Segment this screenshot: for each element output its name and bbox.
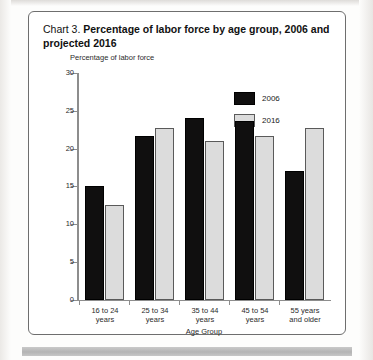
page-edge-shading-right	[359, 0, 373, 360]
bar-2006-2	[135, 136, 154, 299]
bar-2016-1	[105, 205, 124, 299]
y-tick-label-25: 25	[66, 106, 74, 115]
y-tick-label-5: 5	[70, 257, 74, 266]
bar-group-3: 35 to 44years	[179, 74, 229, 300]
chart-title-text: Percentage of labor force by age group, …	[43, 23, 330, 49]
y-tick-label-30: 30	[66, 68, 74, 77]
x-axis-label-line: years	[128, 315, 182, 325]
x-axis-line	[77, 300, 331, 302]
x-tick-5	[279, 300, 280, 305]
page-edge-shading-top	[0, 0, 373, 6]
bar-group-1: 16 to 24years	[79, 74, 129, 300]
x-tick-1	[79, 300, 80, 305]
bar-2006-5	[285, 171, 304, 299]
bar-2006-4	[235, 121, 254, 300]
bar-2016-3	[205, 141, 224, 300]
x-axis-label-line: 45 to 54	[228, 306, 282, 316]
bar-2016-2	[155, 128, 174, 299]
y-tick-label-10: 10	[66, 219, 74, 228]
x-axis-label-2: 25 to 34years	[128, 306, 182, 325]
chart-title-number: Chart 3.	[43, 23, 83, 35]
page-edge-shading-left	[0, 0, 11, 360]
x-axis-label-line: 16 to 24	[78, 306, 132, 316]
chart-figure-frame: Chart 3. Percentage of labor force by ag…	[28, 11, 346, 335]
page-footer-band	[22, 347, 352, 356]
x-axis-title: Age Group	[77, 327, 331, 336]
x-axis-label-line: years	[78, 315, 132, 325]
bar-2006-1	[85, 186, 104, 299]
x-axis-label-1: 16 to 24years	[78, 306, 132, 325]
x-axis-label-line: 55 years	[278, 306, 332, 316]
bar-2006-3	[185, 118, 204, 300]
scanned-page: Chart 3. Percentage of labor force by ag…	[0, 0, 373, 360]
y-axis-title: Percentage of labor force	[70, 53, 154, 62]
x-tick-3	[179, 300, 180, 305]
bar-group-4: 45 to 54years	[229, 74, 279, 300]
x-axis-label-4: 45 to 54years	[228, 306, 282, 325]
x-axis-label-line: 35 to 44	[178, 306, 232, 316]
x-axis-label-5: 55 yearsand older	[278, 306, 332, 325]
chart-title: Chart 3. Percentage of labor force by ag…	[43, 22, 335, 50]
bar-group-5: 55 yearsand older	[279, 74, 329, 300]
y-tick-label-15: 15	[66, 181, 74, 190]
x-axis-label-line: years	[178, 315, 232, 325]
x-tick-4	[229, 300, 230, 305]
x-tick-2	[129, 300, 130, 305]
x-axis-label-line: years	[228, 315, 282, 325]
x-axis-label-3: 35 to 44years	[178, 306, 232, 325]
bar-group-2: 25 to 34years	[129, 74, 179, 300]
plot-area: 302520151050 16 to 24years25 to 34years3…	[77, 73, 331, 301]
bar-2016-4	[255, 136, 274, 300]
y-tick-label-20: 20	[66, 144, 74, 153]
x-axis-label-line: and older	[278, 315, 332, 325]
y-tick-label-0: 0	[70, 295, 74, 304]
bar-2016-5	[305, 128, 324, 299]
x-axis-label-line: 25 to 34	[128, 306, 182, 316]
